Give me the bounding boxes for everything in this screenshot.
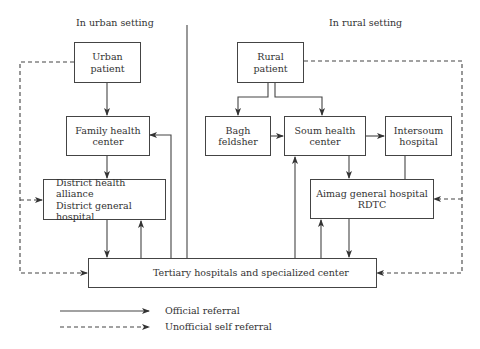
node-text: patient: [253, 63, 287, 75]
node-text: District general hospital: [56, 200, 165, 223]
heading-urban: In urban setting: [76, 17, 154, 28]
node-text: hospital: [399, 136, 437, 148]
node-text: Bagh: [226, 125, 251, 137]
node-soum-health-center: Soum health center: [284, 116, 366, 156]
node-tertiary: Tertiary hospitals and specialized cente…: [88, 258, 377, 288]
legend-official-label: Official referral: [165, 305, 240, 316]
node-text: Intersoum: [394, 125, 444, 137]
node-text: feldsher: [218, 136, 257, 148]
referral-diagram: In urban setting In rural setting Urban …: [0, 0, 480, 349]
node-bagh-feldsher: Bagh feldsher: [205, 116, 271, 156]
node-text: Rural: [257, 51, 284, 63]
heading-rural: In rural setting: [329, 17, 402, 28]
node-aimag-general-hospital: Aimag general hospital RDTC: [310, 179, 434, 219]
node-text: center: [309, 136, 340, 148]
node-rural-patient: Rural patient: [237, 42, 304, 83]
node-family-health-center: Family health center: [66, 116, 150, 156]
node-text: Family health: [75, 125, 140, 137]
node-district: District health alliance District genera…: [43, 179, 166, 220]
node-text: Aimag general hospital: [316, 188, 428, 200]
node-text: Urban: [92, 51, 122, 63]
legend-unofficial-label: Unofficial self referral: [165, 321, 272, 332]
node-text: District health alliance: [56, 177, 165, 200]
node-text: patient: [90, 63, 124, 75]
node-text: center: [92, 136, 123, 148]
node-text: Soum health: [295, 125, 356, 137]
node-urban-patient: Urban patient: [74, 42, 141, 83]
node-text: RDTC: [358, 199, 386, 211]
node-text: Tertiary hospitals and specialized cente…: [153, 267, 349, 279]
node-intersoum-hospital: Intersoum hospital: [385, 116, 452, 156]
